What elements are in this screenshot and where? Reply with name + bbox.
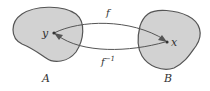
arrow-f-inverse-label: f−1 — [100, 55, 115, 67]
arrow-f-inverse-superscript: −1 — [105, 55, 115, 63]
point-x-label: x — [171, 36, 178, 49]
set-b-label: B — [163, 72, 172, 85]
point-y — [52, 31, 55, 34]
set-a-label: A — [41, 72, 50, 85]
point-x — [165, 40, 168, 43]
function-diagram: y x f f−1 A B — [0, 0, 210, 91]
set-b-region — [138, 10, 200, 69]
arrow-f-label: f — [105, 7, 112, 18]
point-y-label: y — [41, 27, 49, 40]
